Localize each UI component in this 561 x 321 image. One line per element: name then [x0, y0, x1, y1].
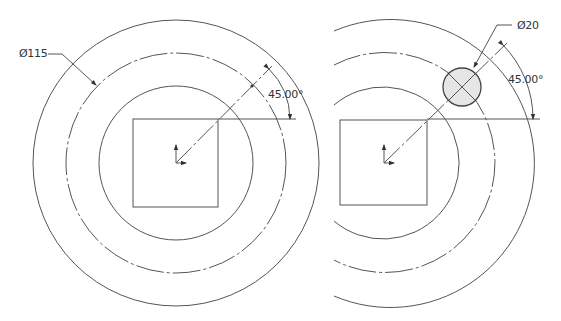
- angle-label-left: 45.00°: [268, 89, 303, 100]
- diameter-leader: [48, 54, 96, 85]
- angle-label-right: 45.00°: [508, 74, 543, 85]
- diameter-leader: [474, 25, 512, 67]
- angle-centerline: [384, 43, 507, 163]
- angle-centerline: [176, 66, 272, 163]
- outer-arc: [334, 20, 534, 308]
- left-view: [33, 20, 319, 306]
- diameter-label-right: Ø20: [517, 20, 539, 31]
- origin-icon: [384, 145, 394, 163]
- inner-arc: [334, 87, 459, 239]
- drawing-canvas: [0, 0, 561, 321]
- right-view: [334, 20, 540, 308]
- diameter-label-left: Ø115: [19, 48, 47, 59]
